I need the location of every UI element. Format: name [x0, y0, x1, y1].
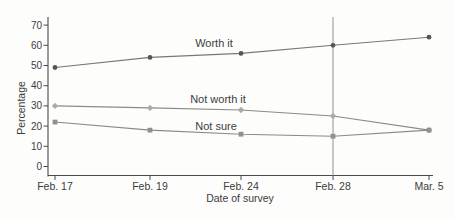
y-axis-tick-label: 20 [31, 121, 43, 132]
y-axis-tick-label: 50 [31, 60, 43, 71]
y-axis-tick-label: 10 [31, 141, 43, 152]
x-axis-tick-label-feb-28: Feb. 28 [315, 180, 351, 192]
series-label-worth-it: Worth it [195, 37, 233, 49]
data-point-worth-it-feb-24 [239, 51, 244, 56]
data-point-not-sure-feb-19 [148, 128, 153, 133]
data-point-not-sure-feb-24 [239, 132, 244, 137]
y-axis-title: Percentage [15, 81, 27, 135]
data-point-not-sure-mar-5 [427, 128, 432, 133]
line-chart-figure: 010203040506070Feb. 17Feb. 19Feb. 24Feb.… [0, 0, 454, 219]
data-point-not-sure-feb-17 [53, 120, 58, 125]
data-point-not-worth-it-feb-19 [147, 105, 153, 111]
data-point-not-worth-it-feb-24 [238, 107, 244, 113]
y-axis-tick-label: 70 [31, 20, 43, 31]
x-axis-tick-label-feb-24: Feb. 24 [223, 180, 259, 192]
y-axis-tick-label: 40 [31, 80, 43, 91]
data-point-worth-it-feb-19 [148, 55, 153, 60]
y-axis-tick-label: 30 [31, 100, 43, 111]
data-point-not-worth-it-feb-17 [52, 103, 58, 109]
x-axis-title: Date of survey [26, 192, 454, 204]
y-axis-tick-label: 60 [31, 40, 43, 51]
x-axis-tick-label-mar-5: Mar. 5 [414, 180, 443, 192]
data-point-worth-it-feb-28 [331, 43, 336, 48]
data-point-worth-it-feb-17 [53, 65, 58, 70]
y-axis-tick-label: 0 [36, 161, 42, 172]
series-label-not-sure: Not sure [195, 120, 237, 132]
series-label-not-worth-it: Not worth it [190, 93, 246, 105]
data-point-worth-it-mar-5 [427, 35, 432, 40]
data-point-not-sure-feb-28 [331, 134, 336, 139]
plot-area: 010203040506070Feb. 17Feb. 19Feb. 24Feb.… [0, 0, 454, 219]
x-axis-tick-label-feb-19: Feb. 19 [132, 180, 168, 192]
data-point-not-worth-it-feb-28 [330, 113, 336, 119]
x-axis-tick-label-feb-17: Feb. 17 [37, 180, 73, 192]
